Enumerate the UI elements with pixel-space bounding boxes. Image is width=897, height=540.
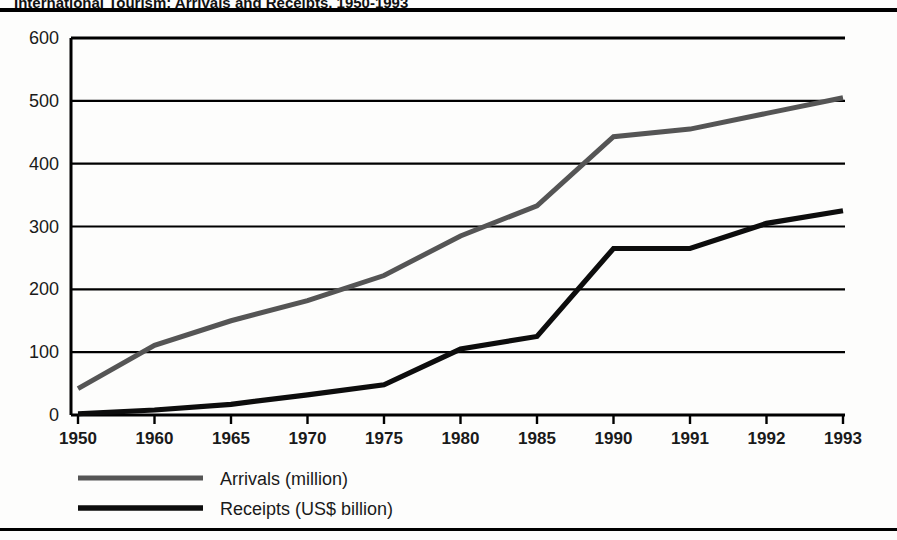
- x-tick-label-1992: 1992: [748, 429, 786, 448]
- y-tick-labels: 0100200300400500600: [29, 28, 59, 425]
- series-line-receipts: [78, 211, 843, 414]
- line-chart: 0100200300400500600 19501960196519701975…: [0, 0, 897, 540]
- y-tick-label-100: 100: [29, 342, 59, 362]
- data-series: [78, 98, 843, 414]
- x-tick-label-1960: 1960: [136, 429, 174, 448]
- x-tick-label-1975: 1975: [365, 429, 403, 448]
- x-tick-label-1965: 1965: [212, 429, 250, 448]
- y-tick-label-300: 300: [29, 217, 59, 237]
- figure-container: International Tourism: Arrivals and Rece…: [0, 0, 897, 540]
- gridlines: [71, 38, 845, 352]
- series-line-arrivals: [78, 98, 843, 389]
- y-tick-label-600: 600: [29, 28, 59, 48]
- y-tick-label-400: 400: [29, 154, 59, 174]
- x-tick-labels: 1950196019651970197519801985199019911992…: [59, 429, 862, 448]
- x-tick-label-1970: 1970: [289, 429, 327, 448]
- y-tick-label-0: 0: [49, 405, 59, 425]
- x-tick-label-1980: 1980: [442, 429, 480, 448]
- legend-label-0: Arrivals (million): [220, 469, 348, 489]
- x-tick-label-1985: 1985: [518, 429, 556, 448]
- x-tick-label-1990: 1990: [595, 429, 633, 448]
- x-tick-label-1950: 1950: [59, 429, 97, 448]
- x-tick-label-1993: 1993: [824, 429, 862, 448]
- y-tick-label-200: 200: [29, 279, 59, 299]
- x-tick-label-1991: 1991: [671, 429, 709, 448]
- legend-label-1: Receipts (US$ billion): [220, 499, 393, 519]
- chart-legend: Arrivals (million)Receipts (US$ billion): [78, 469, 393, 519]
- y-tick-label-500: 500: [29, 91, 59, 111]
